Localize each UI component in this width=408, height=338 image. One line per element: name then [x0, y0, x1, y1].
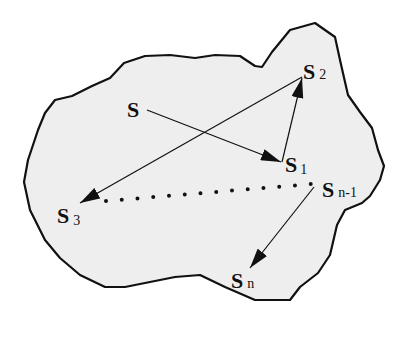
diagram-canvas: S S1 S2 S3 Sn-1 Sn	[0, 0, 408, 338]
node-s: S	[127, 97, 139, 122]
state-space-region	[24, 23, 384, 300]
trajectory-diagram: S S1 S2 S3 Sn-1 Sn	[0, 0, 408, 338]
